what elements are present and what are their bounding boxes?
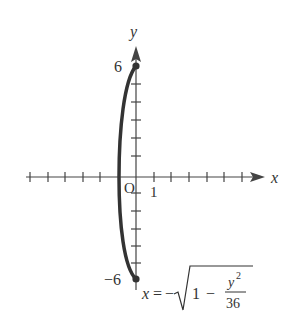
y-axis [131,52,141,290]
equation-exponent: 2 [236,270,241,281]
y-tick-label-neg6: −6 [104,271,121,288]
x-axis-label: x [270,169,278,186]
origin-label: O [124,180,135,196]
equation-numerator: y [226,275,235,290]
equation-minus: − [206,285,215,302]
equation: x = − 1 − y 2 36 [141,266,253,311]
equation-equals: = [153,285,162,302]
y-axis-label: y [128,23,138,41]
equation-negative: − [165,285,174,302]
curve [119,66,136,279]
y-tick-label-6: 6 [114,58,122,75]
equation-lhs: x [141,285,149,302]
equation-one: 1 [192,285,200,302]
x-axis [26,172,258,182]
endpoint-bottom [132,275,139,282]
equation-denominator: 36 [226,296,240,311]
x-tick-label-1: 1 [150,184,158,200]
endpoint-top [132,62,139,69]
graph: y x 6 −6 O 1 x = − 1 − y 2 36 [0,0,295,336]
